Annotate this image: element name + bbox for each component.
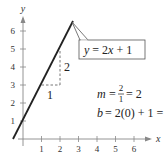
y-tick-label: 5 xyxy=(11,44,16,54)
y-tick-label: 3 xyxy=(11,80,16,90)
slope-denominator: 1 xyxy=(119,94,124,104)
x-tick-label: 4 xyxy=(95,144,100,154)
slope-rise-label: 2 xyxy=(64,60,70,74)
slope-numerator: 2 xyxy=(119,83,124,93)
equation-label: y = 2x + 1 xyxy=(83,43,132,57)
line-series xyxy=(13,21,73,139)
x-tick-label: 5 xyxy=(113,144,118,154)
x-tick-label: 2 xyxy=(58,144,63,154)
y-tick-labels: 1 2 3 4 5 6 xyxy=(11,26,16,126)
x-tick-labels: 1 2 3 4 5 6 xyxy=(39,144,137,154)
equation-label-box: y = 2x + 1 xyxy=(79,40,145,59)
callout-pointer xyxy=(72,22,88,40)
chart: 1 2 3 4 5 6 x 1 2 3 4 5 6 y 1 2 xyxy=(0,0,165,165)
intercept-formula: b = 2(0) + 1 = 1 xyxy=(97,106,165,120)
x-tick-label: 6 xyxy=(132,144,137,154)
y-axis xyxy=(21,16,26,146)
x-axis-label: x xyxy=(155,133,161,144)
slope-run-label: 1 xyxy=(47,88,53,102)
slope-symbol: m xyxy=(97,87,106,101)
slope-equals: = xyxy=(109,87,116,101)
y-tick-label: 6 xyxy=(11,26,16,36)
y-tick-label: 2 xyxy=(11,98,16,108)
intercept-symbol: b xyxy=(97,106,103,120)
intercept-value: = 2(0) + 1 = 1 xyxy=(105,106,165,120)
slope-formula: m = 2 1 = 2 xyxy=(97,83,142,104)
x-tick-label: 1 xyxy=(39,144,44,154)
y-tick-label: 4 xyxy=(11,62,16,72)
slope-result: = 2 xyxy=(126,87,142,101)
y-tick-label: 1 xyxy=(11,116,16,126)
slope-triangle xyxy=(42,49,61,85)
y-axis-label: y xyxy=(20,3,26,14)
x-tick-label: 3 xyxy=(76,144,81,154)
x-axis xyxy=(18,137,152,142)
